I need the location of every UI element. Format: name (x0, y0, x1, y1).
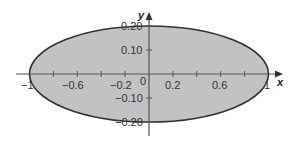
y-tick-label: 0.20 (121, 20, 142, 32)
x-tick-label: 0.2 (165, 79, 180, 91)
x-tick-label: −0.6 (62, 79, 84, 91)
y-tick-label: 0.10 (121, 44, 142, 56)
x-tick-label: 0 (140, 75, 146, 87)
x-tick-label: 1 (264, 79, 270, 91)
x-tick-label: −1 (21, 79, 34, 91)
y-axis-arrow-icon (146, 12, 153, 20)
x-tick-label: −0.2 (110, 79, 132, 91)
ellipse-plot: x y −1 −0.6 −0.2 0 0.2 0.6 1 0.20 0.10 −… (0, 0, 296, 145)
x-tick-label: 0.6 (212, 79, 227, 91)
x-axis-label: x (276, 76, 284, 88)
y-tick-label: −0.10 (115, 92, 143, 104)
y-tick-label: −0.20 (115, 116, 143, 128)
